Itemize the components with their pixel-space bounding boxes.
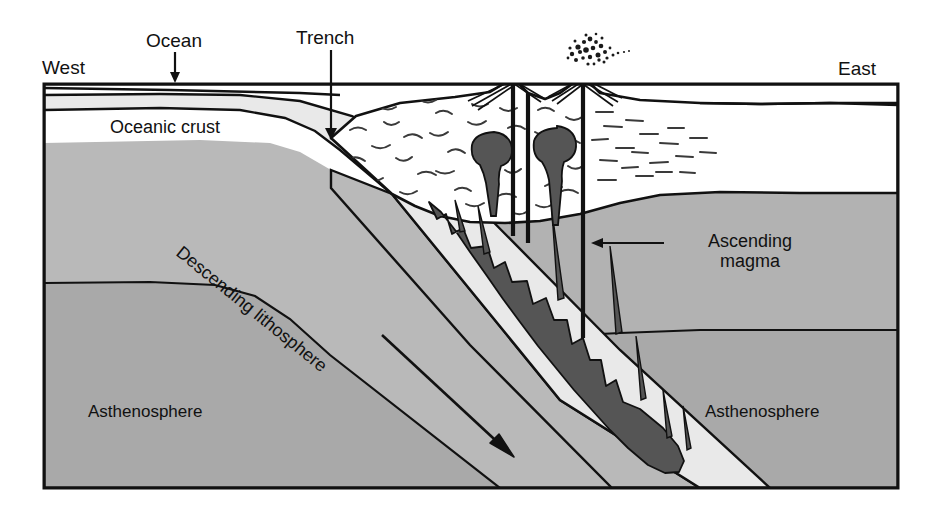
- label-asthenosphere-right: Asthenosphere: [705, 402, 819, 421]
- label-ocean: Ocean: [146, 30, 202, 51]
- ash-cloud-icon: [567, 33, 630, 66]
- label-ascending-magma: Ascending magma: [670, 231, 830, 271]
- ocean-arrow: [170, 52, 180, 83]
- label-ascending-magma-line1: Ascending: [670, 231, 830, 251]
- label-ascending-magma-line2: magma: [670, 251, 830, 271]
- label-oceanic-crust: Oceanic crust: [110, 117, 220, 137]
- east-ground-line: [700, 103, 898, 105]
- label-trench: Trench: [296, 27, 354, 48]
- figure-canvas: West Ocean Trench East Oceanic crust Des…: [0, 0, 936, 508]
- label-asthenosphere-left: Asthenosphere: [88, 402, 202, 421]
- label-west: West: [42, 57, 85, 78]
- label-east: East: [838, 58, 876, 79]
